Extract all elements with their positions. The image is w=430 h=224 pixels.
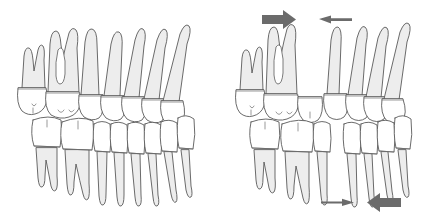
tooth-upper-first-molar — [46, 29, 81, 119]
tooth-upper-first-premolar — [101, 32, 125, 121]
tooth-lower-central-incisor — [394, 116, 412, 198]
tooth-lower-lateral-incisor — [144, 122, 162, 206]
tooth-lower-canine — [360, 122, 378, 207]
tooth-lower-first-premolar — [343, 122, 361, 207]
tooth-upper-second-molar — [18, 45, 48, 114]
panel-normal-occlusion — [0, 0, 215, 224]
tooth-lower-first-premolar — [110, 122, 128, 206]
tooth-lower-first-molar — [61, 118, 94, 200]
tooth-lower-distal-extra — [177, 116, 195, 198]
tooth-lower-second-molar — [32, 117, 62, 191]
tooth-lower-canine — [127, 122, 145, 206]
tooth-upper-second-premolar — [298, 97, 323, 123]
tooth-lower-lateral-incisor — [377, 120, 395, 203]
tooth-upper-first-molar — [264, 25, 299, 121]
tooth-upper-second-molar — [236, 47, 266, 116]
tooth-upper-second-premolar — [79, 29, 104, 120]
panel-tooth-movement-with-space — [215, 0, 430, 224]
tooth-lower-central-incisor — [160, 120, 178, 202]
upper-anterior-force-arrow — [319, 16, 352, 24]
diagram-canvas — [0, 0, 430, 224]
tooth-upper-first-premolar — [324, 27, 348, 120]
tooth-lower-second-premolar — [313, 122, 331, 206]
tooth-lower-first-molar — [281, 120, 314, 204]
tooth-lower-second-premolar — [93, 122, 111, 206]
tooth-lower-second-molar — [250, 119, 280, 193]
